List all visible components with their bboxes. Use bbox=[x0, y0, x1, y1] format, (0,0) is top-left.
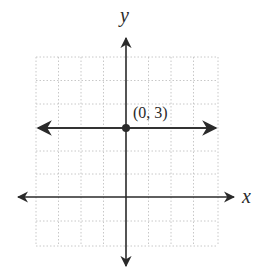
point-label: (0, 3) bbox=[133, 104, 168, 122]
point-0-3 bbox=[122, 124, 130, 132]
coordinate-plane: (0, 3) y x bbox=[0, 0, 264, 279]
x-axis-label: x bbox=[241, 185, 251, 207]
grid bbox=[36, 57, 218, 246]
y-axis-label: y bbox=[118, 4, 129, 27]
